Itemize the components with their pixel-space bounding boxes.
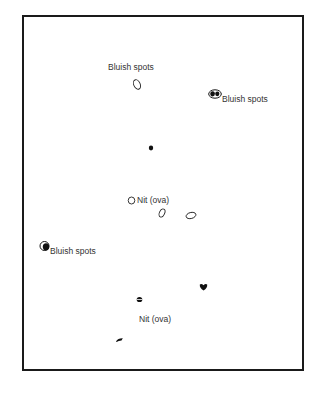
label-bluish-spots-top: Bluish spots	[108, 63, 154, 72]
half-filled-bluish-spot-icon	[39, 240, 51, 252]
small-nit-dot-icon	[136, 296, 143, 303]
dash-spot-icon	[115, 337, 124, 343]
label-bluish-spots-right: Bluish spots	[222, 95, 268, 104]
nit-circle-icon	[127, 196, 136, 205]
nit-oval-tilted-icon	[157, 207, 167, 219]
double-bluish-spot-icon	[208, 89, 222, 99]
filled-dot-spot-icon	[148, 145, 154, 151]
outline-oval-spot-icon	[132, 78, 142, 91]
label-nit-ova-bottom: Nit (ova)	[139, 315, 171, 324]
label-bluish-spots-left: Bluish spots	[50, 247, 96, 256]
heart-shaped-spot-icon	[199, 283, 208, 291]
nit-oval-flat-icon	[185, 211, 197, 220]
label-nit-ova-middle: Nit (ova)	[137, 196, 169, 205]
